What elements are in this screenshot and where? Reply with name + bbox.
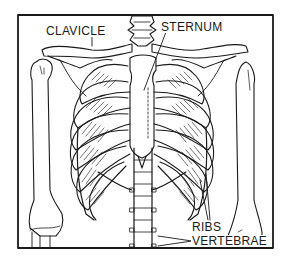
vertebrae-leader	[158, 236, 192, 246]
label-clavicle: CLAVICLE	[45, 25, 107, 37]
anatomy-diagram: CLAVICLE STERNUM RIBS VERTEBRAE	[0, 0, 284, 267]
ribs-right	[154, 64, 214, 220]
cervical-vertebrae	[128, 16, 156, 46]
label-sternum: STERNUM	[160, 21, 223, 33]
humerus-right	[228, 62, 262, 244]
label-vertebrae: VERTEBRAE	[191, 235, 268, 247]
label-ribs: RIBS	[191, 221, 222, 233]
humerus-left	[29, 59, 63, 248]
vertebral-column	[130, 148, 156, 248]
ribs-left	[70, 64, 130, 220]
skeleton-illustration	[0, 0, 284, 267]
